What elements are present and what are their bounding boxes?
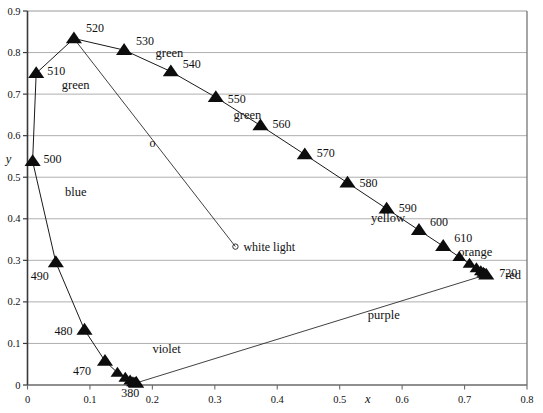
locus-marker-540 — [163, 64, 179, 76]
wavelength-label-530: 530 — [136, 34, 154, 48]
y-tick-label-0.2: 0.2 — [7, 296, 20, 307]
wavelength-label-520: 520 — [86, 21, 104, 35]
region-label-orange-5: orange — [458, 245, 492, 259]
wavelength-label-600: 600 — [430, 215, 448, 229]
spectral-locus-markers — [25, 31, 495, 387]
axis-tick-labels: 00.10.20.30.40.50.60.70.80.900.10.20.30.… — [7, 6, 533, 405]
locus-marker-470 — [97, 354, 113, 366]
wavelength-label-380: 380 — [121, 386, 139, 400]
locus-marker-570 — [297, 147, 313, 159]
region-label-green-0: green — [62, 78, 91, 92]
wavelength-label-510: 510 — [47, 64, 65, 78]
locus-marker-550 — [208, 90, 224, 102]
locus-marker-490 — [48, 255, 64, 267]
locus-marker-480 — [76, 323, 92, 335]
x-tick-label-0.4: 0.4 — [271, 394, 285, 405]
white-point-marker: white light — [233, 240, 296, 254]
chromaticity-straight-lines — [74, 39, 486, 383]
cie-chromaticity-diagram: white light o 00.10.20.30.40.50.60.70.80… — [0, 0, 543, 413]
wavelength-label-480: 480 — [55, 324, 73, 338]
y-tick-label-0.3: 0.3 — [7, 255, 20, 266]
locus-marker-520 — [66, 31, 82, 43]
region-label-green-1: green — [155, 46, 184, 60]
wavelength-label-490: 490 — [31, 269, 49, 283]
line-point-marker: o — [149, 136, 155, 150]
wavelength-label-610: 610 — [454, 231, 472, 245]
y-tick-label-0.7: 0.7 — [7, 89, 20, 100]
region-label-green-2: green — [234, 108, 263, 122]
y-axis-label: y — [4, 152, 12, 166]
y-tick-label-0.4: 0.4 — [7, 213, 21, 224]
purple-line — [136, 275, 486, 383]
region-label-blue-3: blue — [65, 185, 87, 199]
y-tick-label-0.1: 0.1 — [7, 338, 20, 349]
x-tick-label-0.7: 0.7 — [458, 394, 471, 405]
y-tick-label-0.6: 0.6 — [7, 130, 20, 141]
spectral-locus-curve — [33, 39, 487, 384]
x-tick-label-0.8: 0.8 — [520, 394, 533, 405]
locus-marker-610 — [435, 239, 451, 251]
wavelength-label-550: 550 — [228, 92, 246, 106]
region-label-violet-6: violet — [152, 342, 181, 356]
axis-names: yx — [4, 152, 371, 406]
wavelength-label-560: 560 — [272, 117, 290, 131]
x-tick-label-0.2: 0.2 — [146, 394, 159, 405]
x-tick-label-0.3: 0.3 — [208, 394, 221, 405]
region-label-purple-7: purple — [368, 308, 400, 322]
wavelength-label-570: 570 — [317, 146, 335, 160]
chart-canvas: white light o 00.10.20.30.40.50.60.70.80… — [0, 0, 543, 413]
y-tick-label-0.5: 0.5 — [7, 172, 20, 183]
x-tick-label-0.6: 0.6 — [396, 394, 409, 405]
x-tick-label-0.5: 0.5 — [333, 394, 346, 405]
y-tick-label-0.9: 0.9 — [7, 6, 20, 17]
spectral-locus-path — [33, 39, 487, 384]
x-axis-label: x — [364, 392, 371, 406]
locus-marker-600 — [411, 223, 427, 235]
color-region-labels: greengreengreenblueyelloworangevioletpur… — [62, 46, 522, 356]
plot-frame — [28, 11, 528, 385]
axis-ticks — [23, 11, 527, 390]
region-label-yellow-4: yellow — [371, 211, 405, 225]
wavelength-label-580: 580 — [359, 176, 377, 190]
x-tick-label-0: 0 — [25, 394, 30, 405]
wavelength-label-500: 500 — [44, 152, 62, 166]
wavelength-label-470: 470 — [73, 364, 91, 378]
x-tick-label-0.1: 0.1 — [83, 394, 96, 405]
white-light-label: white light — [243, 240, 295, 254]
y-tick-label-0.8: 0.8 — [7, 47, 20, 58]
wavelength-label-540: 540 — [183, 57, 201, 71]
gridlines — [28, 11, 528, 343]
y-tick-label-0: 0 — [15, 380, 20, 391]
region-label-red-8: red — [505, 268, 522, 282]
line-point-o-label: o — [149, 136, 155, 150]
